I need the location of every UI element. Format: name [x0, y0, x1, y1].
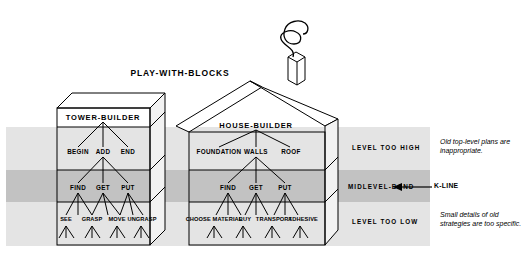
- band-label-level-too-high: LEVEL TOO HIGH: [352, 144, 420, 151]
- tower-leaf-move: MOVE: [108, 216, 125, 222]
- house-leaf-buy: BUY: [239, 216, 251, 222]
- tower-leaf-ungrasp: UNGRASP: [127, 216, 156, 222]
- note-small-details: Small details of old strategies are too …: [440, 210, 522, 229]
- smoke-squiggle: [281, 21, 308, 57]
- tower-root-label: TOWER-BUILDER: [66, 113, 141, 122]
- house-leaf-transport: TRANSPORT: [256, 216, 292, 222]
- kline-label: K-LINE: [434, 182, 458, 189]
- tower-node-add: ADD: [96, 148, 111, 155]
- house-node-walls: WALLS: [244, 148, 268, 155]
- tower-node-find: FIND: [70, 184, 86, 191]
- house-root-label: HOUSE-BUILDER: [219, 121, 293, 130]
- house-roof-right: [250, 81, 338, 126]
- band-label-level-too-low: LEVEL TOO LOW: [352, 218, 418, 225]
- tower-node-put: PUT: [121, 184, 135, 191]
- band-label-midlevel: MIDLEVEL-BAND: [348, 183, 414, 190]
- house-node-put: PUT: [278, 184, 292, 191]
- house-node-find: FIND: [220, 184, 236, 191]
- tower-node-begin: BEGIN: [67, 148, 89, 155]
- tower-leaf-see: SEE: [60, 216, 72, 222]
- diagram-title: PLAY-WITH-BLOCKS: [130, 68, 229, 78]
- house-node-get: GET: [249, 184, 263, 191]
- tower-top-face: [57, 93, 165, 108]
- house-leaf-choose-material: CHOOSE MATERIAL: [186, 216, 243, 222]
- tower-node-get: GET: [96, 184, 110, 191]
- house-node-foundation: FOUNDATION: [196, 148, 241, 155]
- note-top-level-plans: Old top-level plans are inappropriate.: [440, 137, 522, 156]
- house-side-face: [325, 119, 338, 245]
- tower-node-end: END: [121, 148, 135, 155]
- tower-side-face: [150, 93, 165, 245]
- house-leaf-adhesive: ADHESIVE: [288, 216, 318, 222]
- diagram-canvas: PLAY-WITH-BLOCKS TOWER-BUILDER BEGIN ADD…: [0, 0, 524, 263]
- tower-leaf-grasp: GRASP: [82, 216, 103, 222]
- house-node-roof: ROOF: [281, 148, 301, 155]
